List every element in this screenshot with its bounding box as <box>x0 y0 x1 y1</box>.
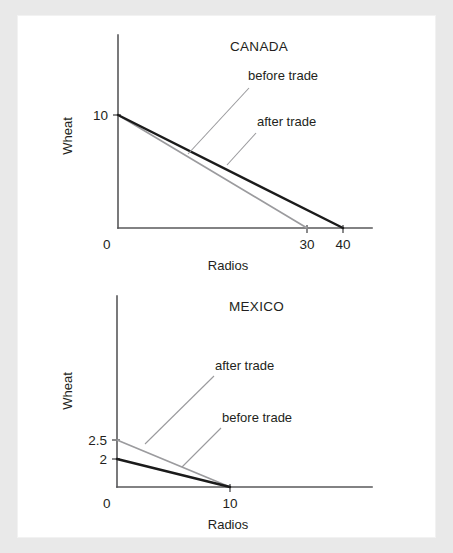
chart-mexico: MEXICO after trade before trade 2.5 2 0 … <box>60 296 372 532</box>
mexico-leader-after-trade <box>145 376 214 444</box>
canada-xtick-0-label: 0 <box>103 237 111 252</box>
mexico-leader-before-trade <box>182 428 221 467</box>
canada-annotation-before-trade: before trade <box>248 68 318 83</box>
canada-leader-after-trade <box>227 133 256 165</box>
canada-x-axis-label: Radios <box>208 258 249 273</box>
mexico-x-axis-label: Radios <box>208 517 249 532</box>
mexico-ytick-25-label: 2.5 <box>88 433 107 448</box>
mexico-ytick-2-label: 2 <box>99 452 107 467</box>
canada-ytick-10-label: 10 <box>93 108 108 123</box>
canada-xtick-40-label: 40 <box>335 237 350 252</box>
canada-annotation-after-trade: after trade <box>257 114 316 129</box>
mexico-xtick-10-label: 10 <box>222 496 237 511</box>
economics-ppf-figure: CANADA before trade after trade 10 0 30 … <box>0 0 453 553</box>
canada-y-axis-label: Wheat <box>60 117 75 155</box>
mexico-annotation-before-trade: before trade <box>222 410 292 425</box>
mexico-title: MEXICO <box>229 299 284 314</box>
canada-series-after-trade <box>118 115 307 228</box>
chart-canada: CANADA before trade after trade 10 0 30 … <box>60 35 372 273</box>
mexico-annotation-after-trade: after trade <box>215 358 274 373</box>
mexico-y-axis-label: Wheat <box>60 372 75 410</box>
canada-series-before-trade <box>118 115 343 228</box>
canada-title: CANADA <box>230 39 288 54</box>
canada-xtick-30-label: 30 <box>299 237 314 252</box>
canada-leader-before-trade <box>188 88 249 154</box>
mexico-xtick-0-label: 0 <box>103 496 111 511</box>
